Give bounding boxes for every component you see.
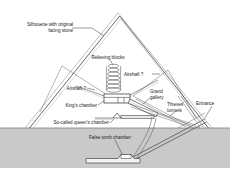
- kings-chamber-shape: [104, 94, 130, 103]
- kings-chamber-leader: [98, 101, 104, 105]
- label-thieves-line1: Thieves': [167, 102, 184, 107]
- label-grand-gallery-line1: Grand: [150, 89, 163, 94]
- silhouette-leader: [72, 28, 104, 36]
- label-relieving-blocks: Relieving blocks: [91, 55, 125, 60]
- label-silhouette-line2: facing stone: [48, 28, 73, 33]
- queens-chamber-shape: [95, 113, 154, 120]
- label-queens-chamber: So-called queen's chamber: [53, 120, 109, 125]
- entrance-leader: [205, 106, 212, 118]
- label-silhouette-line1: Silhouette with original: [27, 22, 73, 27]
- label-entrance: Entrance: [196, 101, 215, 106]
- label-thieves-line2: tunnels: [167, 108, 183, 113]
- label-airshaft-right: Airshaft ?: [124, 72, 144, 77]
- label-airshaft-left: Airshaft ?: [67, 86, 87, 91]
- relieving-blocks-stack: [106, 64, 120, 92]
- label-kings-chamber: King's chamber: [65, 103, 97, 108]
- airshaft-left-leader: [87, 88, 95, 90]
- label-false-tomb-chamber: False tomb chamber: [89, 135, 131, 140]
- label-grand-gallery-line2: gallery: [150, 95, 164, 100]
- pyramid-cross-section-figure: Silhouette with original facing stone Re…: [0, 0, 230, 181]
- internal-diagonal-left-lower: [40, 66, 62, 112]
- diagram-canvas: Silhouette with original facing stone Re…: [0, 0, 230, 181]
- internal-diagonal-left: [62, 66, 112, 98]
